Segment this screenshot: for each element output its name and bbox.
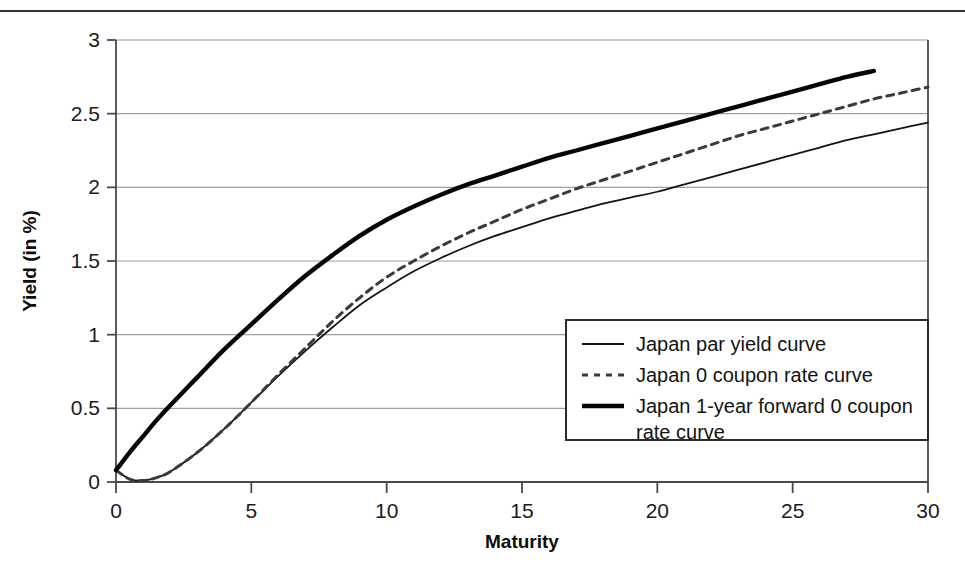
y-tick-label: 2	[88, 175, 100, 198]
x-tick-label: 25	[781, 499, 804, 522]
x-tick-label: 30	[916, 499, 939, 522]
legend-label: Japan 1-year forward 0 coupon	[636, 395, 913, 417]
x-axis-title: Maturity	[485, 531, 559, 552]
x-tick-label: 10	[375, 499, 398, 522]
y-tick-label: 1	[88, 323, 100, 346]
x-tick-label: 0	[110, 499, 122, 522]
y-axis-ticks: 00.511.522.53	[71, 28, 116, 493]
chart-legend: Japan par yield curveJapan 0 coupon rate…	[566, 320, 928, 443]
y-tick-label: 0.5	[71, 396, 100, 419]
header-rule	[0, 10, 965, 12]
y-tick-label: 2.5	[71, 102, 100, 125]
x-tick-label: 20	[646, 499, 669, 522]
legend-label: Japan par yield curve	[636, 333, 826, 355]
legend-label: Japan 0 coupon rate curve	[636, 364, 873, 386]
x-axis-ticks: 051015202530	[110, 482, 940, 522]
chart-figure: 00.511.522.53 051015202530 Yield (in %) …	[0, 0, 965, 578]
yield-curve-chart: 00.511.522.53 051015202530 Yield (in %) …	[0, 0, 965, 578]
y-axis-title: Yield (in %)	[19, 210, 40, 312]
x-tick-label: 5	[245, 499, 257, 522]
legend-label-continued: rate curve	[636, 421, 725, 443]
x-tick-label: 15	[510, 499, 533, 522]
y-tick-label: 1.5	[71, 249, 100, 272]
y-tick-label: 3	[88, 28, 100, 51]
y-tick-label: 0	[88, 470, 100, 493]
